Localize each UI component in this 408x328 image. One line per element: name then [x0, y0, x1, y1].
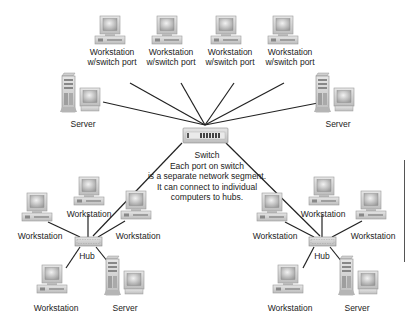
- top-workstation-label: Workstation w/switch port: [265, 47, 314, 67]
- server-label: Server: [70, 119, 95, 129]
- top-workstation-label: Workstation w/switch port: [146, 47, 195, 67]
- workstation-label: Workstation: [67, 209, 112, 219]
- label-line: Workstation: [265, 47, 314, 57]
- hub-icon: [309, 237, 336, 246]
- hub-icon: [75, 237, 102, 246]
- label-line: Workstation: [146, 47, 195, 57]
- description-line: computers to hubs.: [148, 192, 266, 203]
- workstation-icon: [273, 265, 303, 293]
- server-icon: [338, 256, 378, 295]
- switch-description: Switch Each port on switch is a separate…: [148, 150, 266, 203]
- label-line: w/switch port: [205, 57, 254, 67]
- network-diagram: Workstation w/switch port Workstation w/…: [0, 0, 408, 328]
- server-icon: [314, 73, 354, 112]
- workstation-icon: [309, 177, 339, 205]
- workstation-label: Workstation: [34, 303, 79, 313]
- workstation-icon: [268, 16, 298, 44]
- workstation-icon: [211, 16, 241, 44]
- workstation-icon: [121, 191, 151, 219]
- label-line: w/switch port: [265, 57, 314, 67]
- hub-label: Hub: [314, 251, 330, 261]
- workstation-label: Workstation: [116, 231, 161, 241]
- workstation-icon: [37, 265, 67, 293]
- label-line: w/switch port: [87, 57, 136, 67]
- label-line: w/switch port: [146, 57, 195, 67]
- label-line: Workstation: [205, 47, 254, 57]
- description-line: Each port on switch: [148, 161, 266, 172]
- workstation-label: Workstation: [18, 231, 63, 241]
- workstation-icon: [356, 191, 386, 219]
- workstation-label: Workstation: [268, 303, 313, 313]
- workstation-icon: [152, 16, 182, 44]
- server-icon: [60, 73, 100, 112]
- workstation-label: Workstation: [351, 231, 396, 241]
- page-edge-divider: [404, 160, 405, 262]
- top-workstation-label: Workstation w/switch port: [205, 47, 254, 67]
- description-line: It can connect to individual: [148, 182, 266, 193]
- switch-icon: [183, 128, 228, 143]
- workstation-label: Workstation: [253, 231, 298, 241]
- server-icon: [104, 256, 144, 295]
- workstation-icon: [22, 193, 52, 221]
- workstation-icon: [74, 177, 104, 205]
- label-line: Workstation: [87, 47, 136, 57]
- server-label: Server: [344, 303, 369, 313]
- top-workstation-label: Workstation w/switch port: [87, 47, 136, 67]
- description-line: is a separate network segment.: [148, 171, 266, 182]
- switch-label: Switch: [148, 150, 266, 161]
- workstation-icon: [95, 16, 125, 44]
- server-label: Server: [325, 119, 350, 129]
- server-label: Server: [112, 303, 137, 313]
- hub-label: Hub: [79, 251, 95, 261]
- workstation-label: Workstation: [301, 209, 346, 219]
